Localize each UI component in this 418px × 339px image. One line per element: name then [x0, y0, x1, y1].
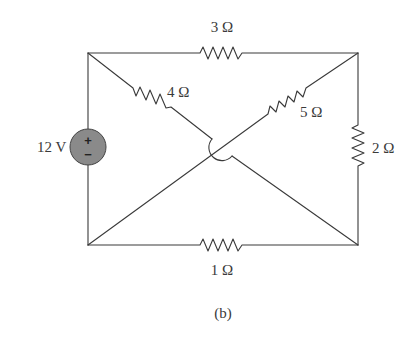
- label-2ohm: 2 Ω: [372, 140, 394, 156]
- label-5ohm: 5 Ω: [300, 104, 322, 120]
- plus-sign: +: [84, 133, 92, 148]
- voltage-source: + −: [70, 129, 106, 165]
- label-4ohm: 4 Ω: [167, 84, 189, 100]
- label-3ohm: 3 Ω: [211, 19, 233, 35]
- source-label: 12 V: [37, 139, 66, 155]
- figure-caption: (b): [214, 305, 232, 322]
- minus-sign: −: [84, 147, 92, 162]
- label-1ohm: 1 Ω: [211, 262, 233, 278]
- circuit-diagram: + − 12 V 3 Ω 4 Ω 5 Ω 2 Ω 1 Ω (b): [0, 0, 418, 339]
